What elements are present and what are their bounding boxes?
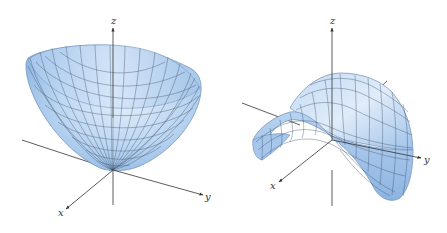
- x-axis-label: x: [58, 207, 64, 218]
- hyperbolic-paraboloid-panel: z y x: [242, 15, 430, 206]
- x-axis: [66, 170, 113, 209]
- z-axis-label: z: [110, 15, 117, 26]
- y-axis-label: y: [423, 154, 430, 165]
- x-axis-label: x: [270, 180, 276, 191]
- elliptic-paraboloid-panel: z y x: [22, 15, 211, 218]
- y-axis: [113, 170, 203, 195]
- figure: z y x: [0, 0, 447, 233]
- x-axis: [279, 140, 332, 182]
- z-axis-label: z: [329, 15, 336, 26]
- y-axis-label: y: [204, 191, 211, 202]
